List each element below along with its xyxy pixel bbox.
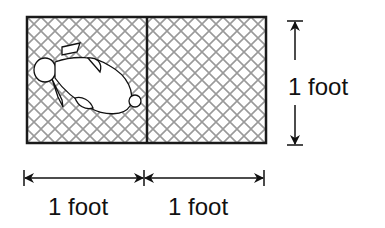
height-label: 1 foot xyxy=(286,73,350,101)
width-label-left: 1 foot xyxy=(48,193,108,221)
width-label-right: 1 foot xyxy=(168,193,228,221)
width-dimension xyxy=(24,170,264,186)
